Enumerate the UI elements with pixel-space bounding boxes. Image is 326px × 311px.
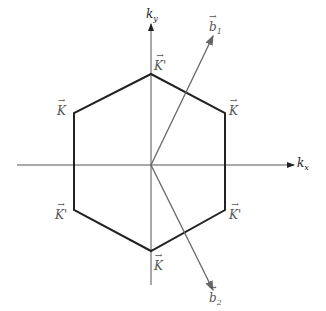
vertex-label-upper-left: K [57, 100, 66, 117]
vector-label-b1: b1 [209, 16, 222, 36]
vector-label-b2: b2 [209, 287, 222, 307]
vertex-label-lower-left: K' [55, 204, 67, 221]
vertex-label-lower-right: K' [229, 204, 241, 221]
brillouin-zone-diagram [0, 0, 326, 311]
vertex-label-top: K' [154, 55, 166, 72]
hexagon-brillouin-zone [74, 74, 225, 251]
vertex-label-bottom: K [154, 255, 163, 272]
ky-label: ky [146, 8, 158, 23]
vertex-label-upper-right: K [229, 100, 238, 117]
kx-label: kx [297, 157, 309, 172]
